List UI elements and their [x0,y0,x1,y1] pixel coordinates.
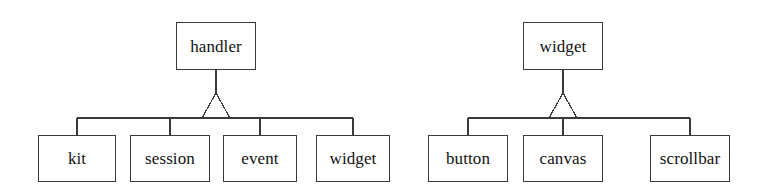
class-box-widget-child[interactable]: widget [316,135,390,182]
widget-hierarchy-connectors [468,70,690,135]
class-box-button[interactable]: button [428,135,508,182]
class-box-event-label: event [241,150,278,167]
class-box-session[interactable]: session [130,135,210,182]
class-box-handler-label: handler [190,37,242,54]
class-box-button-label: button [446,150,490,167]
class-box-session-label: session [145,150,195,167]
class-box-event[interactable]: event [223,135,297,182]
uml-generalization-figure: handler kit session event widget widget … [0,0,764,194]
class-box-handler[interactable]: handler [176,22,256,70]
class-box-kit-label: kit [68,150,86,167]
class-box-scrollbar-label: scrollbar [660,150,720,167]
class-box-canvas[interactable]: canvas [523,135,603,182]
handler-hierarchy-connectors [77,70,353,135]
class-box-widget-child-label: widget [330,150,377,167]
class-box-widget-parent-label: widget [540,37,587,54]
class-box-scrollbar[interactable]: scrollbar [650,135,730,182]
handler-generalization-triangle [202,93,230,118]
class-box-kit[interactable]: kit [38,135,116,182]
class-box-widget-parent[interactable]: widget [523,22,603,70]
class-box-canvas-label: canvas [540,150,587,167]
widget-generalization-triangle [549,93,577,118]
